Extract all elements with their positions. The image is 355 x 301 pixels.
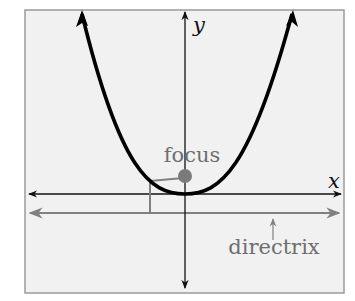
parabola-diagram: y x focus directrix xyxy=(0,0,355,301)
focus-label: focus xyxy=(164,143,220,167)
directrix-label: directrix xyxy=(228,235,320,259)
focus-point xyxy=(178,169,192,183)
y-axis-label: y xyxy=(192,13,206,37)
x-axis-label: x xyxy=(328,169,340,193)
